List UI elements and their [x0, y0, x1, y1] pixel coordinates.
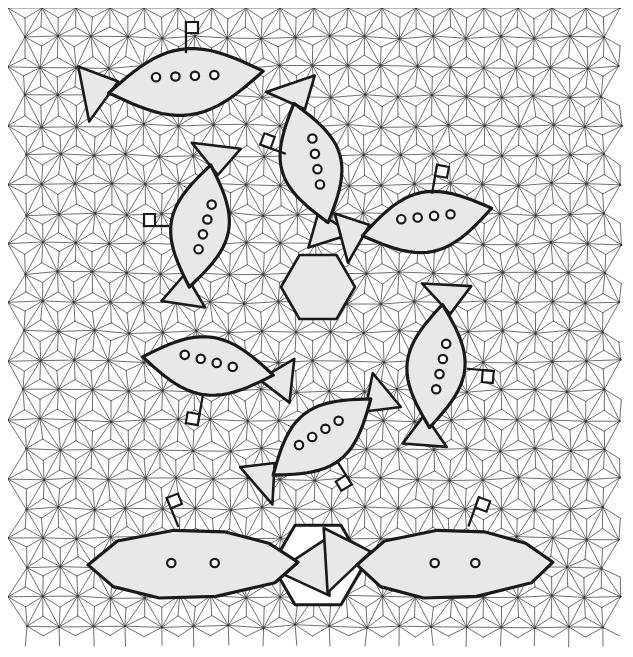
porthole-icon — [334, 417, 342, 425]
porthole-icon — [203, 215, 211, 223]
mesh-canvas — [0, 0, 633, 657]
submarine-lower-center-porthole-4 — [334, 417, 342, 425]
submarine-right-upper-porthole-3 — [430, 212, 438, 220]
porthole-icon — [413, 213, 421, 221]
porthole-icon — [167, 559, 175, 567]
submarine-bottom-left-porthole-1 — [167, 559, 175, 567]
porthole-icon — [207, 200, 215, 208]
submarine-right-middle-porthole-3 — [435, 370, 443, 378]
periscope-flag — [186, 22, 198, 33]
submarine-upper-center-porthole-4 — [316, 180, 324, 188]
submarine-right-middle-porthole-2 — [439, 355, 447, 363]
porthole-icon — [199, 230, 207, 238]
porthole-icon — [213, 359, 221, 367]
porthole-icon — [313, 165, 321, 173]
submarine-right-upper-porthole-1 — [397, 215, 405, 223]
submarine-bottom-right-porthole-1 — [431, 559, 439, 567]
porthole-icon — [308, 134, 316, 142]
mesh-figure — [0, 0, 633, 657]
porthole-icon — [321, 425, 329, 433]
porthole-icon — [197, 355, 205, 363]
porthole-icon — [181, 351, 189, 359]
submarine-top-left-porthole-4 — [210, 71, 218, 79]
porthole-icon — [471, 559, 479, 567]
porthole-icon — [229, 363, 237, 371]
submarine-top-left-porthole-2 — [171, 72, 179, 80]
porthole-icon — [435, 370, 443, 378]
submarine-left-upper-porthole-3 — [199, 230, 207, 238]
submarine-lower-center-porthole-3 — [321, 425, 329, 433]
porthole-icon — [152, 73, 160, 81]
periscope-flag — [144, 214, 155, 226]
porthole-icon — [191, 72, 199, 80]
porthole-icon — [308, 433, 316, 441]
periscope-flag — [260, 133, 274, 148]
submarine-lower-center-porthole-1 — [295, 441, 303, 449]
porthole-icon — [431, 559, 439, 567]
porthole-icon — [439, 355, 447, 363]
submarine-left-middle-porthole-4 — [229, 363, 237, 371]
submarine-upper-center-porthole-3 — [313, 165, 321, 173]
periscope-flag — [435, 165, 449, 178]
porthole-icon — [430, 212, 438, 220]
porthole-icon — [432, 385, 440, 393]
porthole-icon — [295, 441, 303, 449]
porthole-icon — [442, 340, 450, 348]
submarine-upper-center-porthole-2 — [311, 150, 319, 158]
porthole-icon — [211, 559, 219, 567]
submarine-right-middle-porthole-4 — [432, 385, 440, 393]
porthole-icon — [446, 210, 454, 218]
porthole-icon — [311, 150, 319, 158]
submarine-right-upper-porthole-4 — [446, 210, 454, 218]
porthole-icon — [397, 215, 405, 223]
porthole-icon — [210, 71, 218, 79]
submarine-top-left-porthole-3 — [191, 72, 199, 80]
submarine-lower-center-porthole-2 — [308, 433, 316, 441]
porthole-icon — [194, 245, 202, 253]
periscope-flag — [186, 412, 200, 425]
submarine-bottom-left-porthole-2 — [211, 559, 219, 567]
periscope-flag — [475, 497, 490, 512]
submarine-left-middle-porthole-2 — [197, 355, 205, 363]
submarine-right-middle-porthole-1 — [442, 340, 450, 348]
periscope-flag — [482, 370, 494, 383]
submarine-left-upper-porthole-4 — [194, 245, 202, 253]
submarine-left-middle-porthole-3 — [213, 359, 221, 367]
porthole-icon — [171, 72, 179, 80]
porthole-icon — [316, 180, 324, 188]
submarine-upper-center-porthole-1 — [308, 134, 316, 142]
submarine-bottom-right-porthole-2 — [471, 559, 479, 567]
submarine-top-left-porthole-1 — [152, 73, 160, 81]
submarine-left-upper-porthole-1 — [207, 200, 215, 208]
submarine-right-upper-porthole-2 — [413, 213, 421, 221]
submarine-left-upper-porthole-2 — [203, 215, 211, 223]
submarine-left-middle-porthole-1 — [181, 351, 189, 359]
